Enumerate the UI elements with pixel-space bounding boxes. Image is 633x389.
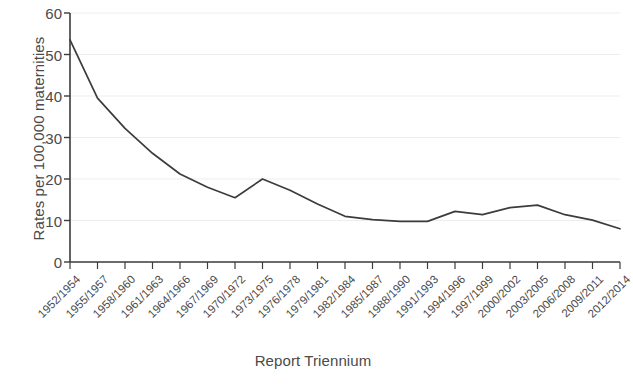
x-axis-title: Report Triennium — [0, 352, 626, 369]
